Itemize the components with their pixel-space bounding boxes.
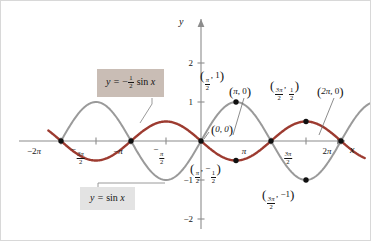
marked-point-dot [233,158,238,163]
variable-x: x [151,77,155,87]
x-tick-label-minus-pi: −π [113,147,123,156]
plot-canvas [1,1,371,241]
fraction-pi-2: π2 [205,77,210,92]
fraction-one-half: 12 [128,75,133,90]
tick-fraction-3pi-2: 3π2 [284,151,293,166]
point-label-peak-3pi-over-2-half: (3π2, 12) [270,81,299,102]
fraction-denominator: 2 [159,159,164,166]
marked-point-dot [303,177,308,182]
point-label-origin: (0, 0) [211,125,233,134]
variable-x: x [120,193,124,203]
x-tick-label-2pi: 2π [322,147,331,156]
close-paren: ) [247,84,251,99]
fraction-denominator: 2 [195,178,200,185]
x-tick-label-minus-3pi-over-2: −3π2 [71,145,86,166]
close-paren: ) [229,122,233,137]
tick-sign-minus-2: −2 [27,146,37,156]
point-label-zero-2pi: (2π, 0) [317,87,344,96]
fraction-denominator: 2 [78,159,83,166]
tick-sign-minus: − [71,144,76,154]
x-tick-label-3pi-over-2: 3π2 [283,145,293,166]
marked-point-dot [128,138,133,143]
open-paren: ( [200,68,204,83]
marked-point-dot [303,119,308,124]
fraction-denominator: 2 [277,95,282,102]
open-paren: ( [262,187,266,202]
open-paren: ( [190,161,194,176]
marked-point-dot [338,138,343,143]
tick-fraction-pi-2: π2 [159,151,164,166]
marked-point-dot [233,99,238,104]
x-tick-label-pi: π [242,147,247,156]
fraction-one-half: 12 [289,87,294,102]
fraction-3pi-2: 3π2 [267,196,276,211]
minus-sign: − [205,163,210,173]
marked-point-dot [268,138,273,143]
y-axis-arrowhead [198,19,205,27]
fraction-denominator: 2 [269,204,274,211]
equation-prefix: y = [90,193,104,203]
x-tick-label-minus-pi-over-2: −π2 [153,145,164,166]
fraction-denominator: 2 [205,85,210,92]
y-value-neg-one: −1 [280,189,290,199]
close-paren: ) [339,84,343,99]
open-paren: ( [270,78,274,93]
x-axis-label: x [350,145,354,155]
tick-symbol-pi: π [327,146,332,156]
point-label-trough-pi-over-2-neg-half: (π2, −12) [190,164,221,185]
tick-symbol-pi: π [242,146,247,156]
point-label-peak-pi-over-2-one: (π2, 1) [200,71,224,92]
comma: , [284,80,289,90]
leader-line-neg-half-sin [140,98,152,123]
sine-graph-figure: y x −2π −3π2 −π −π2 π 3π2 2π 2 1 −1 −2 (… [0,0,371,241]
fraction-denominator: 2 [289,95,294,102]
close-paren: ) [217,161,221,176]
minus-sign: − [122,77,128,87]
marked-point-dot [198,138,203,143]
y-tick-label-1: 1 [181,98,193,107]
y-tick-label-2: 2 [181,59,193,68]
y-tick-label-minus-2: −2 [177,215,193,224]
sin-function: sin [106,193,118,203]
fraction-pi-2: π2 [195,170,200,185]
tick-symbol-pi: π [118,146,123,156]
point-label-trough-3pi-over-2-neg-one: (3π2, −1) [262,190,294,211]
fraction-denominator: 2 [285,159,290,166]
equation-prefix: y = [106,77,120,87]
tick-sign-minus: − [153,144,158,154]
fraction-3pi-2: 3π2 [275,87,284,102]
x-value-2pi: 2π [321,86,330,96]
sin-function: sin [137,77,149,87]
close-paren: ) [290,187,294,202]
tick-symbol-pi: π [37,146,42,156]
callout-neg-half-sin-equation: y = −12 sin x [97,69,164,97]
fraction-one-half: 12 [211,170,216,185]
close-paren: ) [295,78,299,93]
fraction-denominator: 2 [128,83,133,90]
y-axis-label: y [179,17,183,27]
marked-point-dot [58,138,63,143]
callout-sin-equation: y = sin x [80,187,135,210]
x-tick-label-minus-2pi: −2π [27,147,41,156]
close-paren: ) [220,68,224,83]
point-label-zero-pi: (π, 0) [229,87,251,96]
tick-fraction-3pi-2: 3π2 [76,151,85,166]
fraction-denominator: 2 [211,178,216,185]
